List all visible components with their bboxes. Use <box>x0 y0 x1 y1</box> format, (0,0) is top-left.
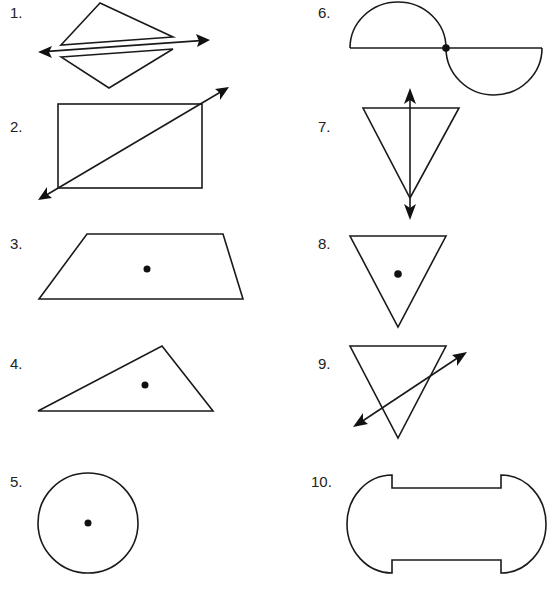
figure-6 <box>350 2 542 95</box>
arrowhead-upright-icon <box>452 352 467 366</box>
arrowhead-downleft-icon <box>353 413 368 427</box>
triangle-bottom <box>61 49 173 88</box>
triangle-top <box>61 3 173 45</box>
diagonal-line <box>43 90 224 197</box>
point <box>144 266 151 273</box>
lower-semicircle <box>446 48 542 95</box>
line <box>44 40 204 51</box>
point <box>142 382 149 389</box>
figure-3 <box>39 234 243 299</box>
point <box>442 44 450 52</box>
figure-8 <box>350 236 446 327</box>
figure-2 <box>38 87 229 200</box>
trapezoid <box>39 234 243 299</box>
point <box>394 270 402 278</box>
center-point <box>85 520 92 527</box>
figure-9 <box>350 346 467 438</box>
upper-semicircle <box>350 2 446 48</box>
figure-1 <box>38 3 210 88</box>
triangle <box>38 346 213 411</box>
arrowhead-left-icon <box>38 46 52 58</box>
figure-7 <box>363 88 459 220</box>
figure-10 <box>347 475 546 573</box>
figure-5 <box>38 473 138 573</box>
notched-capsule <box>347 475 546 573</box>
inverted-triangle <box>363 108 459 198</box>
shapes-canvas <box>0 0 557 597</box>
figure-4 <box>38 346 213 411</box>
inverted-triangle <box>350 236 446 327</box>
